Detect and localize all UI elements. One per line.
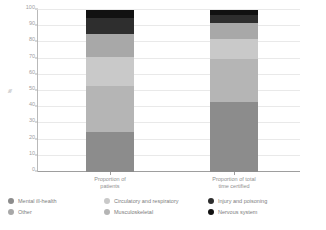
legend-item[interactable]: Circulatory and respiratory [104,196,179,206]
x-tick-mark [234,172,235,175]
gridline-20 [38,139,300,140]
y-tick-mark-0 [35,171,38,172]
legend-label: Other [18,209,32,216]
bar-column[interactable]: Proportion ofpatients [86,10,134,172]
x-axis-label-line: Proportion of total [174,176,294,183]
chart-axes: 0102030405060708090100Proportion ofpatie… [38,10,300,172]
legend-swatch-icon [208,198,214,204]
y-tick-label: 100 [26,4,35,10]
legend-label: Musculoskeletal [114,209,153,216]
legend-swatch-icon [104,209,110,215]
bar-segment[interactable] [86,86,134,131]
gridline-70 [38,58,300,59]
y-tick-mark-40 [35,106,38,107]
y-tick-mark-100 [35,9,38,10]
legend-item[interactable]: Musculoskeletal [104,207,179,217]
y-tick-label: 50 [29,85,35,91]
bar-segment[interactable] [210,10,258,15]
y-tick-label: 20 [29,134,35,140]
y-tick-mark-90 [35,25,38,26]
x-axis-label-line: time certified [174,183,294,190]
gridline-30 [38,122,300,123]
y-axis-line [37,10,38,172]
legend-label: Injury and poisoning [218,198,267,205]
x-axis-label-line: patients [50,183,170,190]
x-axis-label-line: Proportion of [50,176,170,183]
chart-legend: Mental ill-healthOtherCirculatory and re… [0,196,326,230]
legend-swatch-icon [208,209,214,215]
legend-column: Injury and poisoningNervous system [208,196,267,218]
y-tick-mark-30 [35,122,38,123]
legend-item[interactable]: Other [8,207,57,217]
y-axis-title: % [7,83,13,99]
gridline-0 [38,171,300,172]
bar-segment[interactable] [210,39,258,58]
gridline-60 [38,74,300,75]
bar-segment[interactable] [86,132,134,173]
legend-item[interactable]: Nervous system [208,207,267,217]
y-tick-mark-10 [35,154,38,155]
gridline-40 [38,106,300,107]
y-tick-label: 30 [29,117,35,123]
y-tick-mark-50 [35,90,38,91]
bar-column[interactable]: Proportion of totaltime certified [210,10,258,172]
y-tick-label: 90 [29,20,35,26]
legend-label: Circulatory and respiratory [114,198,179,205]
y-tick-label: 10 [29,150,35,156]
gridline-10 [38,155,300,156]
legend-label: Nervous system [218,209,257,216]
y-tick-label: 0 [32,166,35,172]
bar-segment[interactable] [210,23,258,39]
y-tick-mark-20 [35,138,38,139]
gridline-90 [38,25,300,26]
y-tick-mark-70 [35,57,38,58]
legend-swatch-icon [8,209,14,215]
bar-segment[interactable] [210,102,258,172]
plot-area: % 0102030405060708090100Proportion ofpat… [0,0,326,196]
gridline-80 [38,41,300,42]
y-tick-mark-80 [35,41,38,42]
legend-swatch-icon [8,198,14,204]
bar-stack [86,10,134,172]
y-tick-label: 60 [29,69,35,75]
bar-segment[interactable] [86,34,134,57]
y-tick-mark-60 [35,73,38,74]
bar-segment[interactable] [86,18,134,34]
legend-column: Mental ill-healthOther [8,196,57,218]
legend-item[interactable]: Mental ill-health [8,196,57,206]
y-tick-label: 70 [29,53,35,59]
bar-segment[interactable] [86,57,134,86]
bar-stack [210,10,258,172]
x-axis-label: Proportion of totaltime certified [174,176,294,190]
gridline-50 [38,90,300,91]
bar-segment[interactable] [86,10,134,18]
x-axis-label: Proportion ofpatients [50,176,170,190]
legend-swatch-icon [104,198,110,204]
y-tick-label: 40 [29,101,35,107]
gridline-100 [38,9,300,10]
legend-item[interactable]: Injury and poisoning [208,196,267,206]
legend-column: Circulatory and respiratoryMusculoskelet… [104,196,179,218]
x-tick-mark [110,172,111,175]
bar-segment[interactable] [210,59,258,103]
legend-label: Mental ill-health [18,198,57,205]
stacked-bar-chart: % 0102030405060708090100Proportion ofpat… [0,0,326,230]
bar-segment[interactable] [210,15,258,23]
y-tick-label: 80 [29,36,35,42]
